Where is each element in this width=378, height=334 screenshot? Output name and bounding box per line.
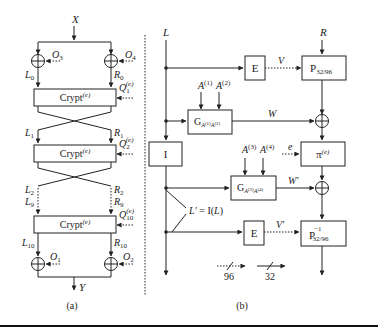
svg-text:E: E	[251, 227, 258, 239]
svg-text:A(1): A(1)	[197, 79, 213, 91]
xor-o4-icon	[105, 55, 118, 68]
svg-text:O2: O2	[123, 251, 134, 264]
label-r9: R9	[113, 196, 124, 209]
caption-b: (b)	[236, 300, 248, 312]
output-y-label: Y	[79, 281, 87, 293]
label-w-prime: W′	[288, 175, 299, 186]
label-l1: L1	[24, 127, 35, 140]
svg-text:A(4): A(4)	[259, 143, 275, 155]
input-l-label: L	[162, 26, 169, 38]
label-l10: L10	[21, 237, 35, 250]
panel-a: X O3 O4 L0 R0 Crypt(e) Q1(e)	[21, 13, 136, 312]
xor-o3-icon	[32, 55, 45, 68]
xor-o2-icon	[105, 258, 118, 271]
label-q10: Q10(e)	[119, 207, 135, 222]
label-w: W	[268, 108, 278, 119]
label-l0: L0	[24, 69, 35, 82]
legend-32: 32	[265, 271, 275, 282]
svg-text:O4: O4	[125, 49, 136, 62]
xor-o1-icon	[32, 258, 45, 271]
label-v-prime: V′	[276, 219, 285, 230]
label-v: V	[278, 55, 286, 66]
legend-96: 96	[224, 271, 234, 282]
input-r-label: R	[319, 26, 327, 38]
label-l-prime: L′ = I(L)	[188, 205, 223, 217]
label-e: e	[288, 141, 293, 152]
label-l9: L9	[24, 196, 35, 209]
xor-1-icon	[316, 115, 329, 128]
svg-text:O1: O1	[50, 251, 61, 264]
svg-text:O3: O3	[52, 49, 63, 62]
svg-text:E: E	[252, 62, 259, 74]
svg-text:A(2): A(2)	[215, 79, 231, 91]
svg-text:A(3): A(3)	[241, 143, 257, 155]
xor-2-icon	[316, 182, 329, 195]
label-q2: Q2(e)	[119, 136, 134, 151]
svg-text:I: I	[164, 148, 168, 160]
diagram-canvas: X O3 O4 L0 R0 Crypt(e) Q1(e)	[0, 0, 378, 334]
panel-b: L R E V P32/96 A(1) A(2) GA(1)A(2) W	[149, 26, 346, 312]
label-r10: R10	[113, 237, 128, 250]
label-q1: Q1(e)	[119, 80, 134, 95]
input-x-label: X	[71, 13, 80, 25]
caption-a: (a)	[66, 300, 77, 312]
label-r0: R0	[113, 69, 124, 82]
